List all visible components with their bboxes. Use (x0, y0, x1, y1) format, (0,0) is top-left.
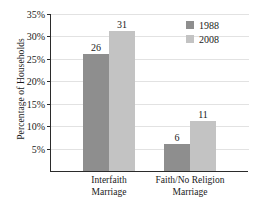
tick-mark-10 (47, 126, 51, 127)
y-tick-label-5: 5% (32, 143, 45, 154)
bar-value-faith-no-religion-2008: 11 (198, 109, 208, 120)
x-category-line-2: Marriage (156, 187, 225, 199)
gridline-35 (51, 14, 249, 15)
tick-mark-25 (47, 59, 51, 60)
bar-interfaith-2008[interactable]: 31 (109, 31, 135, 171)
tick-mark-35 (47, 14, 51, 15)
gridline-20 (51, 81, 249, 82)
tick-mark-20 (47, 81, 51, 82)
y-tick-label-30: 30% (27, 31, 45, 42)
legend-item-1988[interactable]: 1988 (186, 18, 219, 32)
bar-chart: Percentage of Households 35% 30% 25% 20%… (0, 0, 258, 207)
legend-swatch-icon-1988 (186, 21, 194, 29)
y-axis-title: Percentage of Households (16, 4, 26, 174)
gridline-30 (51, 36, 249, 37)
x-category-line-2: Marriage (91, 187, 126, 199)
y-tick-label-35: 35% (27, 9, 45, 20)
x-category-label-interfaith: Interfaith Marriage (91, 175, 126, 198)
legend-label-2008: 2008 (199, 34, 219, 45)
bar-value-interfaith-2008: 31 (117, 19, 127, 30)
y-tick-label-25: 25% (27, 53, 45, 64)
gridline-10 (51, 126, 249, 127)
bar-value-faith-no-religion-1988: 6 (175, 132, 180, 143)
x-category-label-faith-no-religion: Faith/No Religion Marriage (156, 175, 225, 198)
y-tick-label-15: 15% (27, 98, 45, 109)
legend-swatch-icon-2008 (186, 35, 194, 43)
gridline-25 (51, 59, 249, 60)
bar-faith-no-religion-1988[interactable]: 6 (164, 144, 190, 171)
x-category-line-1: Interfaith (91, 175, 126, 187)
bar-interfaith-1988[interactable]: 26 (83, 54, 109, 171)
tick-mark-5 (47, 149, 51, 150)
bar-value-interfaith-1988: 26 (91, 42, 101, 53)
gridline-15 (51, 104, 249, 105)
bar-faith-no-religion-2008[interactable]: 11 (190, 121, 216, 171)
y-tick-label-20: 20% (27, 76, 45, 87)
x-category-line-1: Faith/No Religion (156, 175, 225, 187)
tick-mark-15 (47, 104, 51, 105)
gridline-5 (51, 149, 249, 150)
chart-legend: 1988 2008 (186, 18, 219, 46)
legend-item-2008[interactable]: 2008 (186, 32, 219, 46)
tick-mark-30 (47, 36, 51, 37)
legend-label-1988: 1988 (199, 20, 219, 31)
y-tick-label-10: 10% (27, 121, 45, 132)
